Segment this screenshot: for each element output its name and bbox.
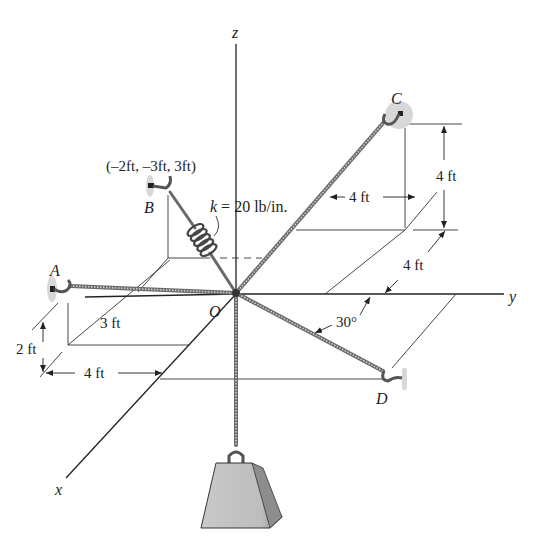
statics-diagram: z y x O 2 ft bbox=[0, 0, 533, 559]
dim-4ft-c-depth: 4 ft bbox=[403, 257, 424, 273]
y-axis-neg bbox=[85, 294, 236, 297]
point-c-label: C bbox=[391, 90, 402, 107]
point-b-label: B bbox=[144, 199, 154, 216]
spring-leader bbox=[214, 216, 219, 236]
construction-lines bbox=[32, 124, 462, 379]
x-axis-label: x bbox=[54, 481, 62, 498]
dim-3ft: 3 ft bbox=[100, 315, 121, 331]
anchor-c: C bbox=[383, 90, 413, 129]
dim-4ft-c-horizontal: 4 ft bbox=[349, 189, 370, 205]
point-d-label: D bbox=[375, 390, 388, 407]
dim-4ft-a: 4 ft bbox=[84, 365, 105, 381]
anchor-b: B (–2ft, –3ft, 3ft) bbox=[106, 158, 196, 216]
dim-4ft-c-vertical: 4 ft bbox=[436, 168, 457, 184]
dim-30deg: 30° bbox=[336, 314, 357, 330]
anchor-a: A bbox=[47, 262, 70, 302]
spring-label: k = 20 lb/in. bbox=[210, 198, 287, 215]
dim-2ft: 2 ft bbox=[16, 341, 37, 357]
axes: z y x O bbox=[54, 24, 517, 498]
weight bbox=[201, 452, 282, 528]
point-a-label: A bbox=[49, 262, 60, 279]
point-b-coordinates: (–2ft, –3ft, 3ft) bbox=[106, 158, 196, 175]
z-axis-label: z bbox=[231, 24, 239, 41]
origin-label: O bbox=[209, 303, 221, 320]
cable-ob-lower bbox=[210, 253, 236, 293]
anchor-d: D bbox=[375, 368, 407, 407]
cable-ob-upper bbox=[170, 192, 195, 228]
x-axis bbox=[66, 294, 236, 478]
origin-knot bbox=[232, 289, 240, 297]
y-axis-label: y bbox=[507, 288, 517, 306]
spring bbox=[186, 222, 219, 259]
